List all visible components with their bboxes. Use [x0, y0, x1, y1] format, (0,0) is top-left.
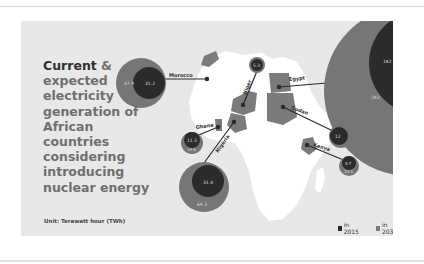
svg-text:14.3: 14.3	[344, 169, 353, 174]
legend-label-2015: in 2015	[344, 221, 361, 235]
svg-text:69.3: 69.3	[197, 202, 207, 207]
top-divider	[0, 6, 424, 7]
title-rest: expected electricity generation of Afric…	[43, 73, 149, 194]
bubble-sudan: 12	[329, 124, 353, 148]
svg-text:31.4: 31.4	[203, 180, 213, 185]
bubble-egypt: 283 182	[324, 21, 393, 176]
legend-item-2030: in 2030	[376, 221, 393, 235]
bottom-divider	[0, 260, 424, 262]
title-amp: &	[97, 58, 112, 73]
infographic-panel: 47.9 31.2 5.3 283 182 12 11.5 19.6	[21, 21, 393, 236]
bubble-kenya: 9.7 14.3	[339, 156, 359, 176]
svg-text:182: 182	[383, 59, 392, 64]
title-current: Current	[43, 58, 97, 73]
svg-text:11.5: 11.5	[187, 138, 197, 143]
bubble-nigeria: 31.4 69.3	[179, 162, 229, 212]
legend: in 2015 in 2030	[338, 221, 393, 235]
bubble-niger: 5.3	[249, 57, 265, 73]
legend-swatch-2015	[338, 226, 342, 231]
madagascar	[315, 167, 325, 193]
legend-label-2030: in 2030	[382, 221, 393, 235]
svg-text:5.3: 5.3	[253, 63, 260, 68]
legend-swatch-2030	[376, 226, 380, 231]
svg-text:19.6: 19.6	[187, 147, 196, 152]
bubble-ghana: 11.5 19.6	[181, 132, 203, 154]
unit-label: Unit: Terawatt hour (TWh)	[44, 218, 125, 224]
label-morocco: Morocco	[169, 72, 193, 78]
svg-text:283: 283	[371, 95, 380, 100]
svg-text:9.7: 9.7	[345, 161, 352, 166]
svg-text:12: 12	[335, 134, 341, 139]
chart-title: Current & expected electricity generatio…	[43, 58, 153, 195]
legend-item-2015: in 2015	[338, 221, 360, 235]
